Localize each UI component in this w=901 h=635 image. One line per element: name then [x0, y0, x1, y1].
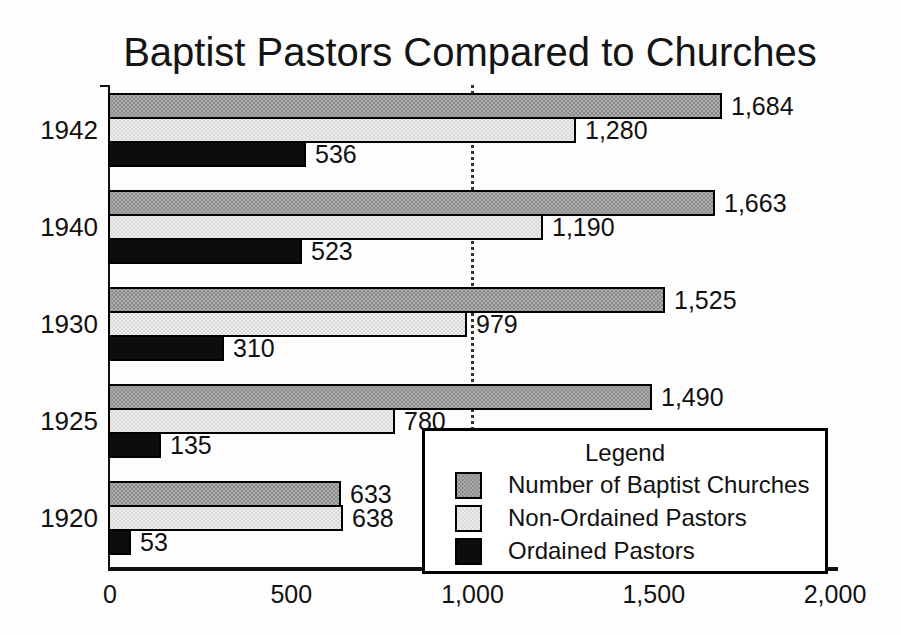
legend-swatch-churches-icon [455, 472, 482, 499]
bar-churches-1920 [108, 481, 341, 507]
legend-title: Legend [425, 439, 825, 467]
value-label-non-ordained-1920: 638 [352, 505, 394, 531]
bar-ordained-1940 [108, 238, 302, 264]
year-label-1920: 1920 [14, 504, 98, 532]
value-label-ordained-1942: 536 [315, 141, 357, 167]
legend-label-churches: Number of Baptist Churches [508, 471, 809, 499]
x-tick-label-2,000: 2,000 [785, 580, 885, 609]
value-label-churches-1930: 1,525 [674, 287, 737, 313]
legend-swatch-non-ordained-icon [455, 505, 482, 532]
value-label-non-ordained-1940: 1,190 [552, 214, 615, 240]
x-tick-label-500: 500 [241, 580, 341, 609]
legend-swatch-ordained-icon [455, 538, 482, 565]
legend-box: Legend Number of Baptist Churches Non-Or… [422, 428, 828, 574]
bar-ordained-1925 [108, 432, 161, 458]
value-label-churches-1925: 1,490 [661, 384, 724, 410]
bar-ordained-1930 [108, 335, 224, 361]
value-label-non-ordained-1942: 1,280 [585, 117, 648, 143]
value-label-ordained-1940: 523 [311, 238, 353, 264]
bar-non-ordained-1930 [108, 311, 467, 337]
bar-ordained-1920 [108, 529, 131, 555]
x-tick-label-1,500: 1,500 [604, 580, 704, 609]
bar-ordained-1942 [108, 141, 306, 167]
year-label-1925: 1925 [14, 407, 98, 435]
bar-churches-1940 [108, 190, 715, 216]
legend-item-non-ordained: Non-Ordained Pastors [455, 504, 747, 532]
value-label-ordained-1920: 53 [140, 529, 168, 555]
year-label-1930: 1930 [14, 310, 98, 338]
bar-churches-1930 [108, 287, 665, 313]
legend-label-non-ordained: Non-Ordained Pastors [508, 504, 747, 532]
chart-canvas: Baptist Pastors Compared to Churches 194… [0, 0, 901, 635]
y-axis-top-tick [100, 85, 110, 87]
legend-item-churches: Number of Baptist Churches [455, 471, 809, 499]
year-label-1942: 1942 [14, 116, 98, 144]
value-label-churches-1940: 1,663 [724, 190, 787, 216]
year-label-1940: 1940 [14, 213, 98, 241]
value-label-ordained-1930: 310 [233, 335, 275, 361]
bar-non-ordained-1925 [108, 408, 395, 434]
legend-label-ordained: Ordained Pastors [508, 537, 695, 565]
value-label-ordained-1925: 135 [170, 432, 212, 458]
x-tick-label-0: 0 [60, 580, 160, 609]
bar-churches-1925 [108, 384, 652, 410]
value-label-churches-1942: 1,684 [731, 93, 794, 119]
legend-item-ordained: Ordained Pastors [455, 537, 695, 565]
value-label-non-ordained-1930: 979 [476, 311, 518, 337]
x-tick-label-1,000: 1,000 [423, 580, 523, 609]
